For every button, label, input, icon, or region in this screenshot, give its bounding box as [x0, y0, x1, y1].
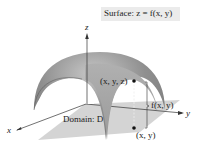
surface-diagram [0, 0, 200, 150]
height-label: f(x, y) [151, 100, 174, 110]
z-axis-label: z [85, 22, 89, 32]
z-axis-arrow-icon [85, 33, 89, 39]
y-axis-arrow-icon [178, 111, 184, 115]
point-3d-label: (x, y, z) [100, 76, 127, 86]
point-2d-label: (x, y) [136, 130, 156, 140]
domain-label: Domain: D [63, 114, 103, 124]
x-axis-arrow-icon [16, 127, 22, 131]
y-axis-label: y [186, 108, 190, 118]
surface-point [132, 79, 136, 83]
x-axis-label: x [7, 125, 11, 135]
